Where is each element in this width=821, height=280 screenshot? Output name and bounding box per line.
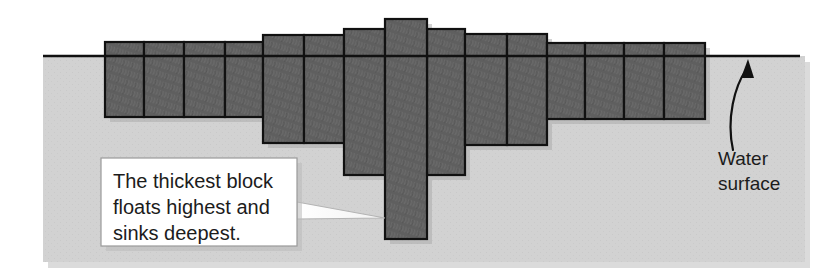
block-15 [664,43,705,119]
block-12 [547,43,585,119]
block-11 [507,34,547,145]
block-3 [184,42,225,117]
block-13 [585,43,624,119]
callout-line-3: sinks deepest. [113,222,241,244]
callout-line-2: floats highest and [113,196,270,218]
block-14 [624,43,664,119]
block-10 [465,34,507,145]
block-6 [304,35,344,143]
water-surface-label-line2: surface [718,173,780,194]
callout-line-1: The thickest block [113,170,274,192]
floating-blocks-figure: Water surface The thickest block floats … [0,0,821,280]
diagram-canvas: Water surface The thickest block floats … [0,0,821,280]
callout-box: The thickest block floats highest and si… [101,158,302,251]
block-5 [263,35,304,143]
water-surface-label-line1: Water [718,148,769,169]
block-1 [105,42,144,117]
block-8-thickest [385,19,427,239]
block-9 [427,29,465,175]
block-7 [344,29,385,175]
block-2 [144,42,184,117]
block-4 [225,42,263,117]
